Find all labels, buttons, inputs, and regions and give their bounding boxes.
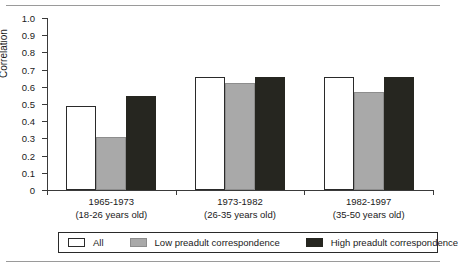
x-axis-tick — [433, 190, 434, 195]
y-axis-tick-label: 0.8 — [9, 46, 35, 59]
x-axis-group-age-range: (35-50 years old) — [304, 209, 433, 222]
x-axis-group-period: 1982-1997 — [304, 196, 433, 209]
legend-label-all: All — [93, 237, 104, 248]
bar — [384, 77, 414, 190]
top-divider-rule — [6, 5, 440, 6]
x-axis-tick — [47, 190, 48, 195]
x-axis-group-label: 1965-1973(18-26 years old) — [47, 196, 176, 221]
x-axis-group-label: 1973-1982(26-35 years old) — [176, 196, 305, 221]
y-axis-tick-label: 0.3 — [9, 132, 35, 145]
bar — [96, 137, 126, 190]
x-axis-group-period: 1973-1982 — [176, 196, 305, 209]
bar — [195, 77, 225, 190]
legend-swatch-all-icon — [68, 238, 85, 247]
y-axis-tick-label: 0.7 — [9, 64, 35, 77]
bottom-divider-rule — [6, 261, 440, 262]
legend-swatch-low-icon — [130, 238, 147, 247]
y-axis-tick-label: 0 — [9, 184, 35, 197]
legend-item-low-preadult: Low preadult correspondence — [130, 237, 280, 248]
x-axis-tick — [304, 190, 305, 195]
y-axis-tick-label: 0.6 — [9, 81, 35, 94]
y-axis-tick-label: 0.1 — [9, 167, 35, 180]
y-axis-tick-label: 1.0 — [9, 12, 35, 25]
y-axis-tick-label: 0.4 — [9, 115, 35, 128]
plot-area: 1.00.90.80.70.60.50.40.30.20.10 — [47, 18, 433, 190]
legend-item-high-preadult: High preadult correspondence — [306, 237, 458, 248]
legend-label-high-preadult: High preadult correspondence — [331, 237, 458, 248]
bar — [126, 96, 156, 190]
y-axis-title: Correlation — [0, 29, 9, 78]
y-axis-tick-label: 0.2 — [9, 150, 35, 163]
bar — [255, 77, 285, 190]
x-axis-group-period: 1965-1973 — [47, 196, 176, 209]
legend-item-all: All — [68, 237, 104, 248]
y-axis-tick-label: 0.9 — [9, 29, 35, 42]
x-axis-group-label: 1982-1997(35-50 years old) — [304, 196, 433, 221]
x-axis-tick — [176, 190, 177, 195]
bar-series-layer — [47, 18, 433, 190]
bar — [66, 106, 96, 190]
y-axis-tick-label: 0.5 — [9, 98, 35, 111]
x-axis-group-age-range: (18-26 years old) — [47, 209, 176, 222]
bar — [324, 77, 354, 190]
bar — [225, 83, 255, 191]
x-axis-line — [47, 190, 434, 191]
chart-legend: All Low preadult correspondence High pre… — [58, 232, 438, 253]
legend-label-low-preadult: Low preadult correspondence — [155, 237, 280, 248]
bar — [354, 92, 384, 190]
x-axis-group-age-range: (26-35 years old) — [176, 209, 305, 222]
legend-swatch-high-icon — [306, 238, 323, 247]
